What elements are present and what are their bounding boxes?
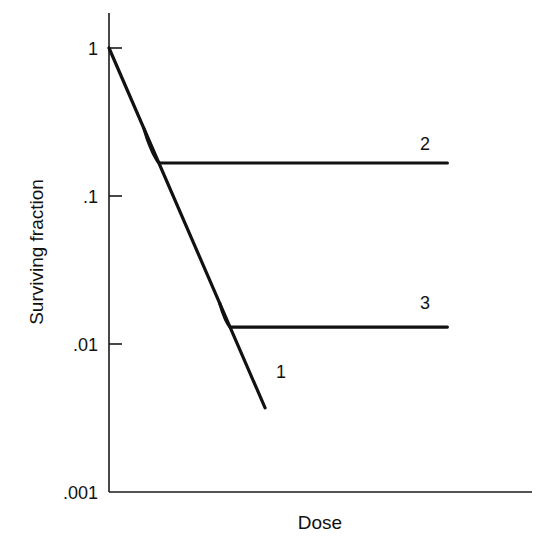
series-3-curve	[220, 304, 448, 328]
y-tick-label-3: .001	[63, 483, 98, 503]
y-tick-label-2: .01	[73, 335, 98, 355]
series-2-curve	[144, 129, 447, 163]
series-2-label: 2	[420, 134, 430, 154]
survival-chart: 1.1.01.001 123 Dose Surviving fraction	[0, 0, 551, 555]
axes	[109, 13, 532, 492]
x-axis-title: Dose	[298, 512, 342, 533]
series-3-label: 3	[420, 293, 430, 313]
curve-labels: 123	[276, 134, 430, 382]
y-axis-title: Surviving fraction	[26, 179, 47, 325]
y-ticks: 1.1.01.001	[63, 39, 122, 503]
y-tick-label-0: 1	[88, 39, 98, 59]
series-1-line	[109, 48, 265, 408]
series-1-label: 1	[276, 362, 286, 382]
y-tick-label-1: .1	[83, 187, 98, 207]
curves	[109, 48, 447, 408]
